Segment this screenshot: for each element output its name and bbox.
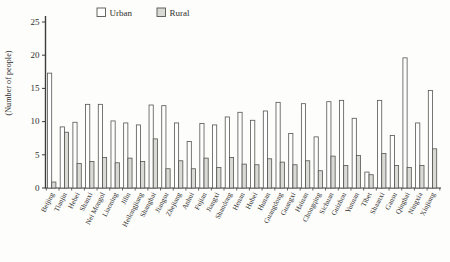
- y-axis-title: (Number of people): [4, 50, 13, 115]
- bar-rural-guangdong: [280, 162, 284, 188]
- bar-urban-xinjiang: [428, 90, 432, 188]
- bar-urban-yunnan: [352, 118, 356, 188]
- bar-urban-jiangsu: [162, 106, 166, 188]
- legend-label-rural: Rural: [170, 8, 190, 18]
- bar-urban-shaanxi: [378, 100, 382, 188]
- bar-rural-beijing: [52, 182, 56, 188]
- bar-urban-hubei: [251, 120, 255, 188]
- bar-urban-shanxi: [86, 104, 90, 188]
- bar-rural-jiangsu: [166, 169, 170, 188]
- bar-urban-fujian: [200, 124, 204, 188]
- bar-rural-xinjiang: [433, 149, 437, 188]
- bar-urban-liaoning: [111, 121, 115, 188]
- y-tick-label: 5: [35, 150, 40, 160]
- bar-rural-liaoning: [115, 163, 119, 188]
- bar-rural-shanxi: [90, 161, 94, 188]
- bar-urban-jiangxi: [213, 125, 217, 188]
- bar-urban-chongqing: [314, 137, 318, 188]
- bar-urban-guizhou: [339, 100, 343, 188]
- bar-urban-hebei: [73, 122, 77, 188]
- y-tick-label: 15: [31, 83, 41, 93]
- bar-urban-anhui: [187, 142, 191, 188]
- bar-urban-jilin: [124, 123, 128, 188]
- y-tick-label: 20: [31, 50, 41, 60]
- bar-rural-sichuan: [331, 156, 335, 188]
- bar-urban-beijing: [48, 73, 52, 188]
- bar-urban-guangxi: [289, 134, 293, 188]
- y-tick-label: 25: [31, 17, 41, 27]
- bar-rural-nei-mongol: [102, 157, 106, 188]
- bar-chart: 0510152025(Number of people)UrbanRuralBe…: [0, 0, 450, 262]
- bar-rural-fujian: [204, 158, 208, 188]
- bar-rural-hunan: [267, 159, 271, 188]
- bar-rural-guizhou: [344, 165, 348, 188]
- bar-urban-shanghai: [149, 105, 153, 188]
- bar-rural-tianjin: [64, 132, 68, 188]
- bar-chart-figure: 0510152025(Number of people)UrbanRuralBe…: [0, 0, 450, 262]
- bar-rural-yunnan: [356, 155, 360, 188]
- bar-urban-hunan: [263, 111, 267, 188]
- bar-rural-hebei: [77, 163, 81, 188]
- bar-rural-zhejiang: [179, 161, 183, 188]
- bar-rural-qinghai: [407, 167, 411, 188]
- bar-urban-sichuan: [327, 102, 331, 188]
- bar-rural-jiangxi: [217, 167, 221, 188]
- bar-rural-chongqing: [318, 171, 322, 188]
- bar-rural-shanghai: [153, 139, 157, 188]
- bar-rural-gansu: [394, 165, 398, 188]
- legend-swatch-urban: [97, 8, 106, 17]
- y-tick-label: 0: [35, 183, 40, 193]
- bar-urban-gansu: [390, 136, 394, 188]
- bar-rural-hainan: [306, 161, 310, 188]
- bar-rural-henan: [242, 164, 246, 188]
- legend-label-urban: Urban: [110, 8, 133, 18]
- bar-rural-shandong: [229, 157, 233, 188]
- y-tick-label: 10: [31, 116, 41, 126]
- bar-rural-ningxia: [420, 165, 424, 188]
- bar-urban-henan: [238, 112, 242, 188]
- bar-urban-shandong: [225, 117, 229, 188]
- bar-urban-ningxia: [416, 123, 420, 188]
- bar-urban-tibet: [365, 172, 369, 188]
- bar-rural-tibet: [369, 175, 373, 188]
- x-category-label: Tianjin: [53, 191, 70, 213]
- bar-urban-guangdong: [276, 102, 280, 188]
- bar-urban-hainan: [301, 104, 305, 188]
- x-category-label: Henan: [231, 191, 247, 212]
- legend-swatch-rural: [157, 8, 166, 17]
- bar-urban-qinghai: [403, 58, 407, 188]
- bar-urban-heilongjiang: [136, 125, 140, 188]
- bar-rural-shaanxi: [382, 153, 386, 188]
- bar-urban-nei-mongol: [98, 104, 102, 188]
- bar-rural-heilongjiang: [141, 161, 145, 188]
- bar-urban-zhejiang: [174, 123, 178, 188]
- bar-rural-anhui: [191, 169, 195, 188]
- bar-rural-hubei: [255, 165, 259, 188]
- bar-urban-tianjin: [60, 127, 64, 188]
- bar-rural-guangxi: [293, 165, 297, 188]
- bar-rural-jilin: [128, 158, 132, 188]
